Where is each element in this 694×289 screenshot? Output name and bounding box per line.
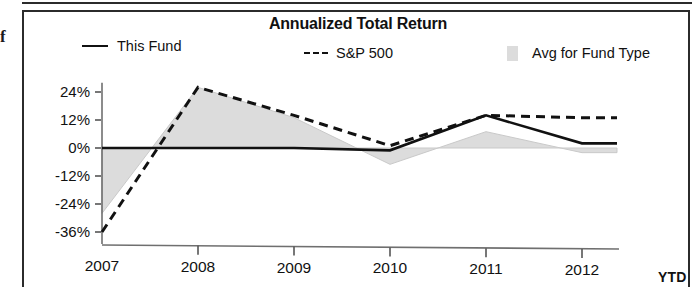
x-axis-tick-label: 2008 — [158, 259, 238, 275]
line-series-sp500 — [102, 87, 617, 232]
y-axis-tick-label: 0% — [24, 140, 90, 155]
stray-glyph: f — [0, 28, 6, 45]
x-axis-tick-label: 2011 — [446, 261, 526, 277]
x-axis-tick-label: 2012 — [542, 262, 622, 278]
y-axis-tick-label: -12% — [24, 168, 90, 183]
chart-svg — [24, 12, 692, 289]
annualized-total-return-chart-panel: Annualized Total Return This Fund S&P 50… — [22, 10, 690, 287]
y-axis-tick-label: -24% — [24, 196, 90, 211]
x-axis-tick-label: 2009 — [254, 260, 334, 276]
x-axis — [102, 245, 619, 249]
divider-top — [22, 2, 692, 4]
y-axis-tick-label: -36% — [24, 224, 90, 239]
x-axis-ytd-label: YTD — [658, 269, 687, 285]
x-axis-tick-label: 2007 — [62, 258, 142, 274]
y-axis-tick-label: 24% — [24, 84, 90, 99]
plot-area: 24%12%0%-12%-24%-36%20072008200920102011… — [24, 12, 692, 289]
x-axis-tick-label: 2010 — [350, 260, 430, 276]
y-axis-tick-label: 12% — [24, 112, 90, 127]
